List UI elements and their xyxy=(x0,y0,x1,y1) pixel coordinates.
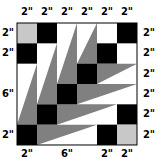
right-dimension-label: 2" xyxy=(139,69,159,79)
right-dimension-label: 2" xyxy=(139,48,159,58)
black-square xyxy=(17,43,37,63)
top-dimension-label: 2" xyxy=(37,7,57,17)
black-square xyxy=(97,125,117,145)
black-square xyxy=(77,64,97,84)
black-square xyxy=(117,104,137,124)
top-dimension-label: 2" xyxy=(97,7,117,17)
black-square xyxy=(17,125,37,145)
right-dimension-label: 2" xyxy=(139,130,159,140)
right-dimension-label: 2" xyxy=(139,89,159,99)
left-dimension-label: 2" xyxy=(0,28,18,38)
bottom-dimension-label: 6" xyxy=(57,149,77,159)
bottom-dimension-label: 2" xyxy=(117,149,137,159)
left-dimension-label: 2" xyxy=(0,48,18,58)
light-gray-square xyxy=(17,23,37,43)
top-dimension-label: 2" xyxy=(17,7,37,17)
top-dimension-label: 2" xyxy=(57,7,77,17)
left-dimension-label: 6" xyxy=(0,89,18,99)
left-dimension-label: 2" xyxy=(0,130,18,140)
bottom-dimension-label: 2" xyxy=(97,149,117,159)
black-square xyxy=(37,104,57,124)
black-square xyxy=(117,23,137,43)
black-square xyxy=(97,43,117,63)
bottom-dimension-label: 2" xyxy=(17,149,37,159)
right-dimension-label: 2" xyxy=(139,28,159,38)
top-dimension-label: 2" xyxy=(77,7,97,17)
right-dimension-label: 2" xyxy=(139,109,159,119)
top-dimension-label: 2" xyxy=(117,7,137,17)
black-square xyxy=(57,84,77,104)
light-gray-square xyxy=(117,125,137,145)
black-square xyxy=(37,23,57,43)
